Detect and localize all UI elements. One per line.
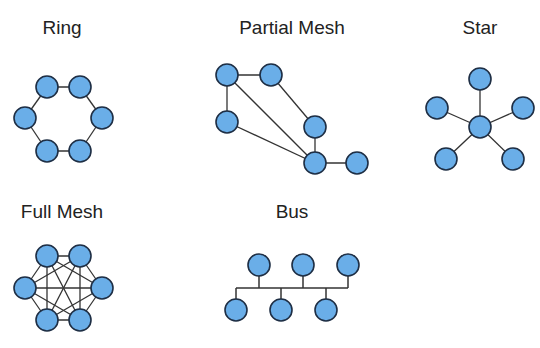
star-node [469,68,491,90]
partial-mesh-node [216,111,238,133]
partial-mesh-node [304,152,326,174]
partial-mesh-node [260,64,282,86]
ring-node [36,140,58,162]
star-node [502,148,524,170]
bus-node [225,299,247,321]
bus-node [248,254,270,276]
title-partial-mesh: Partial Mesh [239,17,345,39]
bus-node [270,299,292,321]
ring-node [91,107,113,129]
partial-mesh-edge [227,122,315,163]
full-mesh-node [36,245,58,267]
partial-mesh-node [346,152,368,174]
star-node [512,97,534,119]
network-topologies-diagram [0,0,540,348]
full-mesh-node [69,309,91,331]
title-ring: Ring [42,17,81,39]
ring-node [14,107,36,129]
title-star: Star [463,17,498,39]
star-node [426,97,448,119]
ring-node [36,76,58,98]
partial-mesh-edge [227,75,315,163]
ring-node [69,140,91,162]
full-mesh-node [91,277,113,299]
star-node [469,116,491,138]
full-mesh-node [36,309,58,331]
full-mesh-node [14,277,36,299]
bus-node [337,254,359,276]
ring-node [69,76,91,98]
title-bus: Bus [276,201,309,223]
bus-node [315,299,337,321]
partial-mesh-node [304,116,326,138]
full-mesh-node [69,245,91,267]
title-full-mesh: Full Mesh [21,201,103,223]
partial-mesh-node [216,64,238,86]
bus-node [292,254,314,276]
star-node [435,148,457,170]
